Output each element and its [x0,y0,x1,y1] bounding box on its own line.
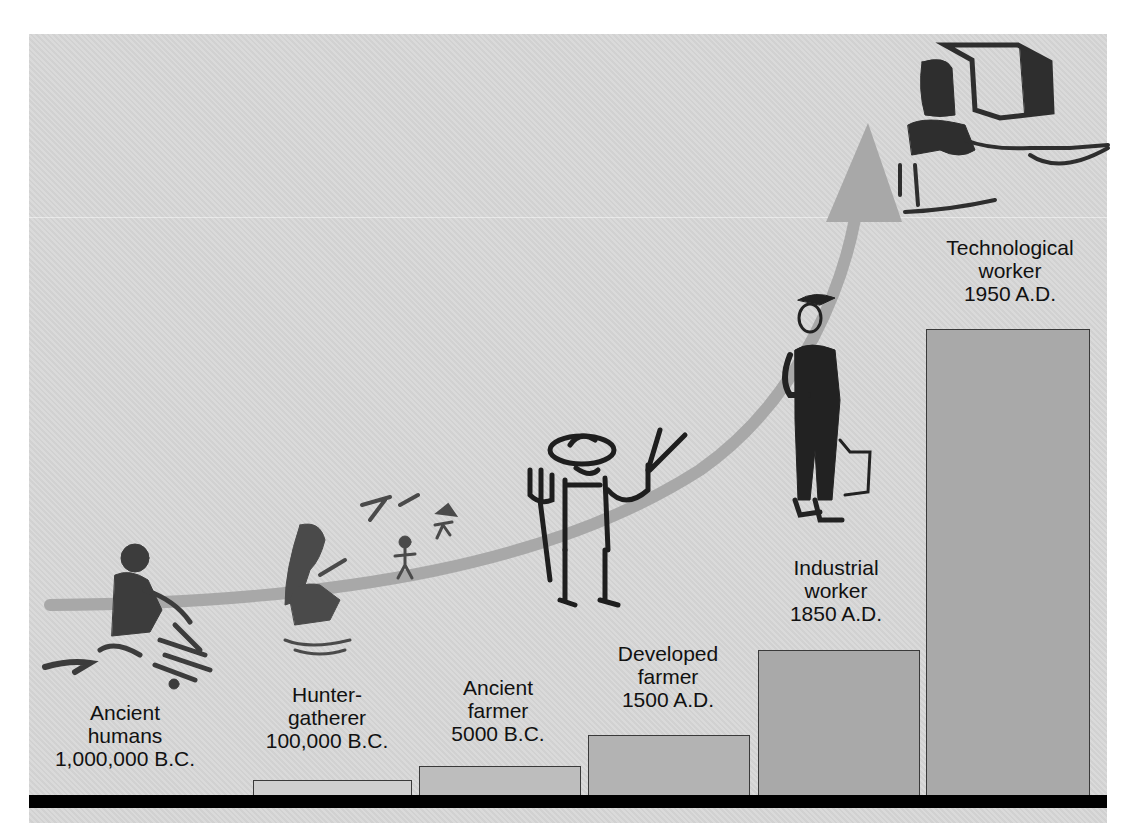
label-technological-worker: Technological worker 1950 A.D. [946,236,1073,305]
farmer-with-pitchfork-icon [530,430,685,605]
label-developed-farmer: Developed farmer 1500 A.D. [618,642,718,711]
person-at-fire-icon [45,544,210,689]
factory-worker-icon [785,294,870,520]
baseline-axis [29,795,1107,808]
label-industrial-worker: Industrial worker 1850 A.D. [790,556,882,625]
computer-worker-icon [900,45,1108,212]
trend-arrow-icon [50,123,902,605]
label-ancient-humans: Ancient humans 1,000,000 B.C. [55,701,195,770]
label-hunter-gatherer: Hunter- gatherer 100,000 B.C. [266,683,389,752]
label-ancient-farmer: Ancient farmer 5000 B.C. [451,676,544,745]
